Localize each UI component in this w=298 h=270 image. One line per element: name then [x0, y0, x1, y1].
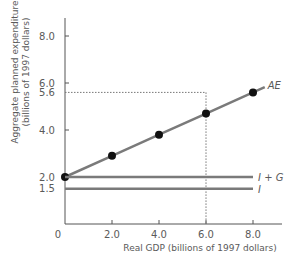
- x-tick-label: 4.0: [151, 229, 167, 240]
- series-label: AE: [267, 80, 282, 91]
- chart: 02.04.06.08.01.52.04.05.66.08.0Real GDP …: [0, 0, 298, 270]
- series-lines: [61, 87, 265, 189]
- data-point: [108, 152, 116, 160]
- axes: [65, 18, 282, 224]
- x-tick-label: 0: [55, 229, 61, 240]
- y-tick-label: 6.0: [39, 78, 55, 89]
- series-label: I + G: [258, 172, 284, 183]
- x-tick-label: 8.0: [245, 229, 261, 240]
- data-point: [202, 110, 210, 118]
- line-ae: [65, 87, 265, 177]
- y-tick-label: 4.0: [39, 125, 55, 136]
- x-tick-label: 2.0: [104, 229, 120, 240]
- y-axis-title: Aggregate planned expenditure: [10, 0, 20, 144]
- data-point: [249, 88, 257, 96]
- y-tick-label: 2.0: [39, 172, 55, 183]
- labels: 02.04.06.08.01.52.04.05.66.08.0Real GDP …: [10, 0, 284, 253]
- y-tick-label: 5.6: [39, 87, 55, 98]
- data-point: [155, 131, 163, 139]
- y-axis-subtitle: (billions of 1997 dollars): [21, 18, 31, 127]
- series-label: I: [258, 184, 261, 195]
- dotted-guides: [65, 92, 206, 224]
- y-tick-label: 1.5: [39, 183, 55, 194]
- x-axis-title: Real GDP (billions of 1997 dollars): [123, 243, 276, 253]
- y-tick-label: 8.0: [39, 31, 55, 42]
- x-tick-label: 6.0: [198, 229, 214, 240]
